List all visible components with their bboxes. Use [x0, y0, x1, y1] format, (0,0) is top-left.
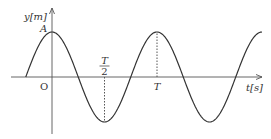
x-axis-label: t[s] [246, 82, 263, 93]
origin-label: O [40, 81, 48, 92]
tick-label-numerator: T [101, 55, 109, 66]
tick-label-T: T [154, 81, 162, 92]
y-axis-label: y[m] [23, 11, 47, 22]
amplitude-label: A [39, 23, 47, 34]
tick-label-denominator: 2 [101, 66, 107, 77]
x-tick-labels: T2T [100, 55, 162, 92]
axes [11, 8, 262, 134]
chart: y[m] A O t[s] T2T [0, 0, 271, 139]
